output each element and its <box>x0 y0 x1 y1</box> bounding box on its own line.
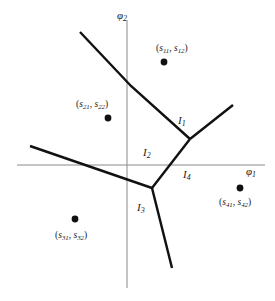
site-dot-s2 <box>105 115 112 122</box>
region-label-i3-sub: 3 <box>141 206 145 215</box>
site-label-s1: (s11, s12) <box>156 44 188 55</box>
site-label-s2-a-sub: 21 <box>83 103 90 110</box>
site-label-s4: (s41, s42) <box>219 198 251 209</box>
site-dot-s4 <box>237 185 244 192</box>
region-label-i2: I2 <box>143 147 151 160</box>
x-axis-label-sub: 1 <box>252 170 256 179</box>
y-axis-label-sub: 2 <box>123 14 127 23</box>
region-label-i4-sub: 4 <box>187 173 191 182</box>
region-label-i2-sub: 2 <box>147 151 151 160</box>
site-label-s4-b-sub: 42 <box>241 201 248 208</box>
site-dot-s1 <box>161 59 168 66</box>
region-label-i4: I4 <box>183 169 191 182</box>
y-axis-label: φ2 <box>117 10 127 23</box>
site-label-s1-close: ) <box>184 43 187 53</box>
region-label-i3: I3 <box>137 202 145 215</box>
site-label-s3-close: ) <box>84 230 87 240</box>
site-label-s3: (s31, s32) <box>55 231 87 242</box>
site-label-s4-close: ) <box>248 197 251 207</box>
site-label-s2: (s21, s22) <box>76 100 108 111</box>
site-label-s2-b-sub: 22 <box>98 103 105 110</box>
figure-canvas <box>0 0 275 301</box>
boundary-edge-lower <box>152 188 172 268</box>
region-label-i1: I1 <box>178 115 186 128</box>
site-label-s4-a-sub: 41 <box>226 201 233 208</box>
x-axis-label: φ1 <box>246 166 256 179</box>
site-label-s2-close: ) <box>105 99 108 109</box>
voronoi-figure: φ2 φ1 I1 I2 I3 I4 (s11, s12) (s21, s22) … <box>0 0 275 301</box>
site-label-s3-b-sub: 32 <box>77 234 84 241</box>
boundary-edge-left <box>30 146 152 188</box>
site-dot-s3 <box>72 216 79 223</box>
region-label-i1-sub: 1 <box>182 119 186 128</box>
site-label-s3-a-sub: 31 <box>62 234 69 241</box>
boundary-edge-upper-right <box>190 105 233 139</box>
